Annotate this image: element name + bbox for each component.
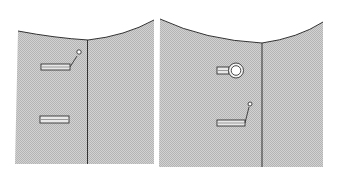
diagram: [0, 0, 338, 175]
left-panel-surface: [15, 20, 154, 164]
left-panel: [15, 20, 154, 164]
right-panel: [159, 19, 323, 167]
plain-slot-icon: [40, 116, 69, 123]
